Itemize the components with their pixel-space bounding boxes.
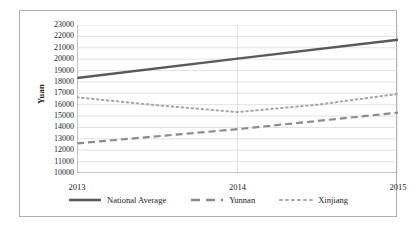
plot-svg (77, 25, 398, 173)
chart-frame: Yuan 23000220002100020000190001800017000… (19, 10, 397, 217)
y-tick-label: 11000 (54, 158, 74, 166)
x-tick-label: 2014 (229, 183, 246, 192)
y-tick-label: 15000 (54, 112, 74, 120)
y-tick-label: 18000 (54, 78, 74, 86)
x-tick-label: 2013 (69, 183, 86, 192)
y-tick-label: 17000 (54, 89, 74, 97)
y-tick-label: 19000 (54, 67, 74, 75)
y-axis-title: Yuan (36, 64, 46, 124)
y-tick-label: 10000 (54, 169, 74, 177)
legend-label: Xinjiang (318, 196, 348, 205)
legend-swatch-solid-line-icon (68, 195, 102, 205)
legend-swatch-dashed-line-icon (190, 195, 224, 205)
plot-area: 2300022000210002000019000180001700016000… (77, 25, 398, 173)
vertical-gridlines (77, 25, 398, 173)
y-tick-label: 23000 (54, 21, 74, 29)
y-tick-label: 21000 (54, 44, 74, 52)
chart-legend: National AverageYunnanXinjiang (20, 195, 396, 205)
legend-label: Yunnan (229, 196, 255, 205)
legend-swatch-dotted-line-icon (279, 195, 313, 205)
y-tick-label: 12000 (54, 146, 74, 154)
legend-item-national-average[interactable]: National Average (68, 195, 166, 205)
chart-figure: Yuan 23000220002100020000190001800017000… (0, 0, 417, 227)
y-tick-label: 14000 (54, 123, 74, 131)
y-tick-label: 22000 (54, 32, 74, 40)
y-tick-label: 16000 (54, 101, 74, 109)
legend-label: National Average (107, 196, 166, 205)
y-tick-label: 20000 (54, 55, 74, 63)
legend-item-xinjiang[interactable]: Xinjiang (279, 195, 348, 205)
x-tick-label: 2015 (390, 183, 407, 192)
legend-item-yunnan[interactable]: Yunnan (190, 195, 255, 205)
y-tick-label: 13000 (54, 135, 74, 143)
